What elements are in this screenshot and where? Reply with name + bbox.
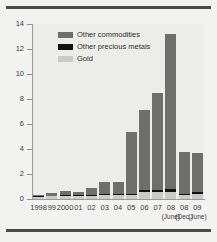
y-axis-tick-label: 10	[0, 70, 24, 78]
bar-segment-commodities	[179, 152, 190, 194]
y-axis-tick	[27, 174, 32, 175]
bar-segment-commodities	[33, 195, 44, 197]
bar-segment-gold	[179, 195, 190, 199]
top-divider-rule	[6, 6, 211, 9]
bar-09	[192, 24, 203, 199]
legend-item: Other commodities	[58, 30, 150, 39]
y-axis-tick-label: 12	[0, 45, 24, 53]
bar-segment-gold	[192, 194, 203, 199]
bar-segment-commodities	[73, 192, 84, 195]
bar-segment-precious	[99, 194, 110, 195]
legend-label: Other commodities	[77, 31, 140, 39]
bar-segment-gold	[73, 195, 84, 199]
bar-segment-commodities	[192, 153, 203, 192]
bar-segment-precious	[113, 194, 124, 195]
bar-segment-gold	[165, 192, 176, 200]
legend-label: Gold	[77, 55, 93, 63]
bar-segment-precious	[192, 192, 203, 194]
y-axis-tick	[27, 149, 32, 150]
bottom-divider-rule	[6, 229, 211, 232]
x-axis-tick-label: 09	[186, 204, 208, 212]
chart-legend: Other commoditiesOther precious metalsGo…	[58, 30, 150, 66]
bar-segment-precious	[165, 189, 176, 192]
bar-segment-gold	[46, 196, 57, 199]
bar-99	[46, 24, 57, 199]
bar-segment-precious	[86, 195, 97, 196]
bar-segment-precious	[179, 194, 190, 196]
y-axis-tick	[27, 74, 32, 75]
bar-segment-precious	[152, 190, 163, 192]
y-axis-tick-label: 0	[0, 195, 24, 203]
bar-segment-gold	[60, 195, 71, 199]
y-axis-tick-label: 2	[0, 170, 24, 178]
bar-segment-gold	[113, 195, 124, 199]
y-axis-tick	[27, 124, 32, 125]
bar-08	[179, 24, 190, 199]
legend-item: Gold	[58, 54, 150, 63]
y-axis-tick	[27, 24, 32, 25]
bar-segment-gold	[152, 192, 163, 200]
bar-segment-gold	[33, 197, 44, 200]
bar-07	[152, 24, 163, 199]
x-axis-sublabel: (June)	[185, 213, 209, 221]
bar-segment-commodities	[60, 191, 71, 195]
legend-swatch-commodities	[58, 32, 73, 38]
bar-segment-commodities	[152, 93, 163, 190]
bar-segment-precious	[139, 190, 150, 192]
y-axis-tick-label: 14	[0, 20, 24, 28]
bar-segment-commodities	[139, 110, 150, 190]
bar-1998	[33, 24, 44, 199]
y-axis-tick-label: 4	[0, 145, 24, 153]
bar-segment-precious	[126, 194, 137, 195]
bar-segment-gold	[86, 195, 97, 199]
bar-segment-commodities	[113, 182, 124, 195]
bar-segment-commodities	[126, 132, 137, 194]
y-axis-tick-label: 6	[0, 120, 24, 128]
legend-item: Other precious metals	[58, 42, 150, 51]
legend-label: Other precious metals	[77, 43, 150, 51]
legend-swatch-gold	[58, 56, 73, 62]
legend-swatch-precious	[58, 44, 73, 50]
bar-segment-gold	[99, 195, 110, 199]
bar-segment-commodities	[99, 182, 110, 195]
bar-segment-commodities	[46, 193, 57, 195]
bar-segment-gold	[139, 192, 150, 200]
x-axis-line	[32, 199, 205, 200]
chart-figure: 02468101214 19989920000102030405060708(J…	[0, 0, 217, 242]
y-axis-tick	[27, 99, 32, 100]
bar-segment-commodities	[165, 34, 176, 189]
bar-segment-gold	[126, 195, 137, 199]
y-axis-tick	[27, 199, 32, 200]
bar-segment-commodities	[86, 188, 97, 195]
bar-08	[165, 24, 176, 199]
y-axis-tick	[27, 49, 32, 50]
y-axis-tick-label: 8	[0, 95, 24, 103]
